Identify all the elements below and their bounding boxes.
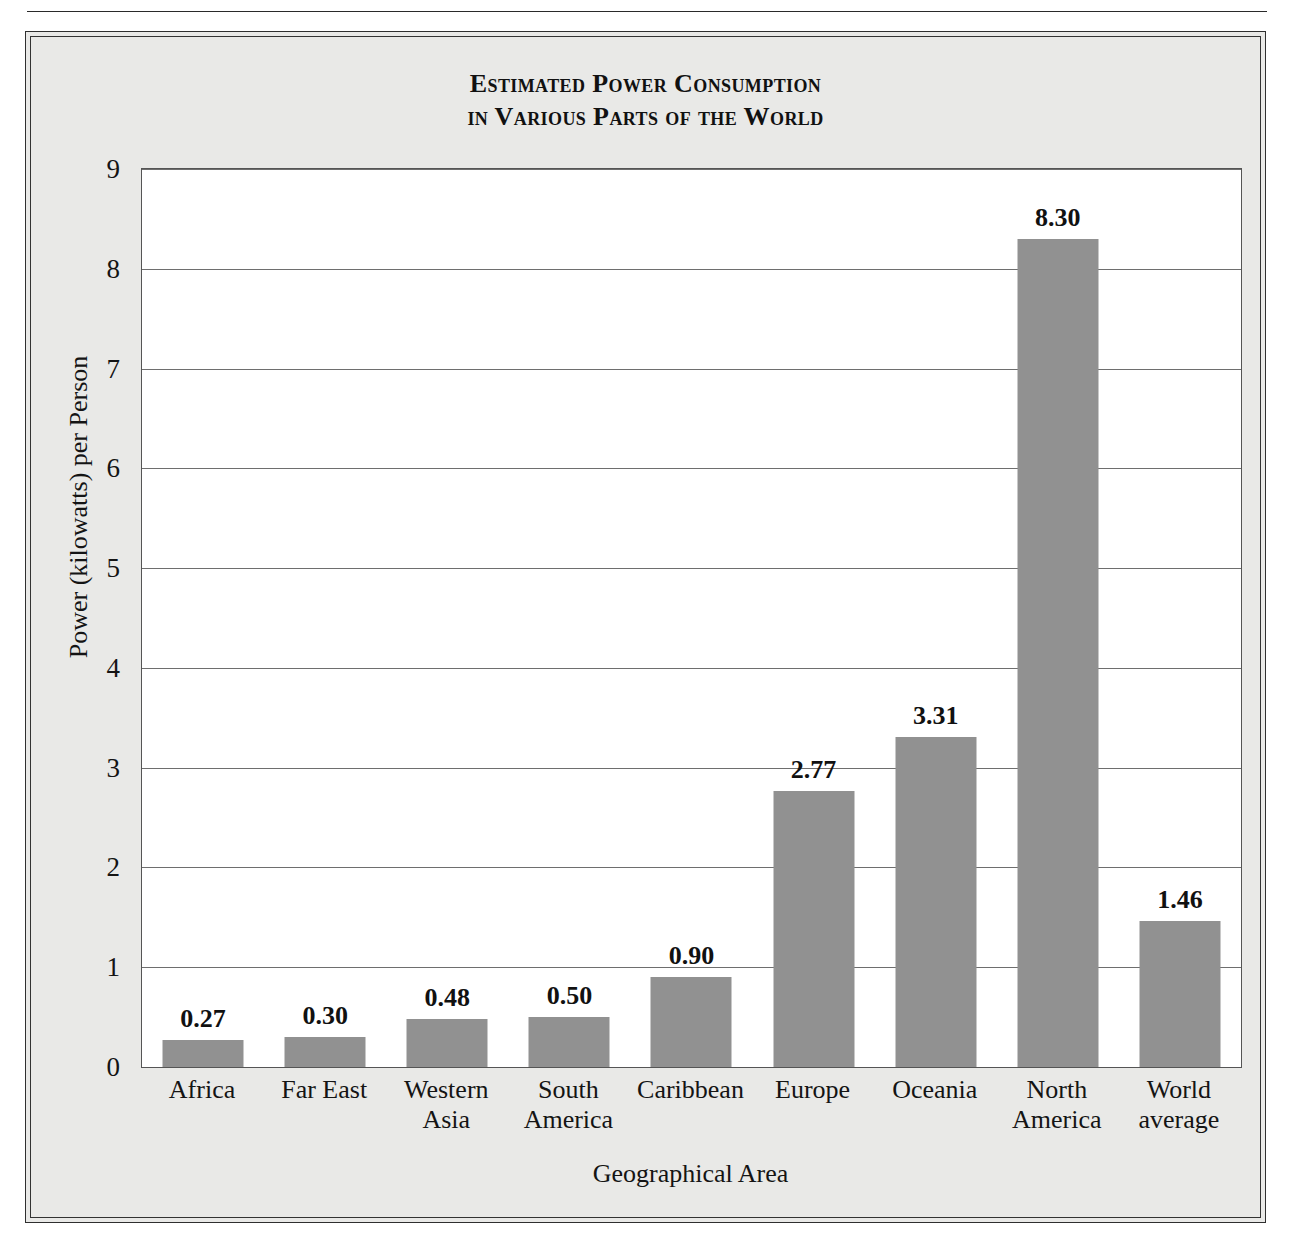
x-axis-category-labels: AfricaFar EastWesternAsiaSouthAmericaCar… (141, 1075, 1240, 1167)
bar-value-label: 0.48 (425, 983, 471, 1013)
bar[interactable] (285, 1037, 366, 1067)
y-tick-label-0: 0 (107, 1052, 121, 1083)
bar-value-label: 0.90 (669, 941, 715, 971)
bar-slot: 8.30 (997, 169, 1119, 1067)
y-axis-title: Power (kilowatts) per Person (64, 227, 94, 787)
x-category-label-line: South (507, 1075, 629, 1105)
bar[interactable] (1017, 239, 1098, 1067)
chart-title: Estimated Power Consumption in Various P… (31, 67, 1260, 134)
y-tick-label-4: 4 (107, 652, 121, 683)
figure-inner-border: Estimated Power Consumption in Various P… (30, 36, 1261, 1218)
bar[interactable] (163, 1040, 244, 1067)
bar[interactable] (773, 791, 854, 1067)
bar-value-label: 0.27 (180, 1004, 226, 1034)
y-tick-label-7: 7 (107, 353, 121, 384)
y-tick-label-2: 2 (107, 852, 121, 883)
bar[interactable] (529, 1017, 610, 1067)
y-tick-label-6: 6 (107, 453, 121, 484)
y-tick-label-5: 5 (107, 553, 121, 584)
bar-value-label: 0.30 (302, 1001, 348, 1031)
x-category-label-line: Europe (752, 1075, 874, 1105)
x-category-label-line: Asia (385, 1105, 507, 1135)
bar-slot: 0.48 (386, 169, 508, 1067)
x-category-label: Oceania (874, 1075, 996, 1105)
y-tick-label-3: 3 (107, 752, 121, 783)
y-tick-label-9: 9 (107, 154, 121, 185)
figure-page: Estimated Power Consumption in Various P… (0, 0, 1292, 1254)
x-category-label-line: Africa (141, 1075, 263, 1105)
bar[interactable] (1139, 921, 1220, 1067)
plot-area: 0123456789 0.270.300.480.500.902.773.318… (141, 168, 1242, 1068)
chart-title-line-2: in Various Parts of the World (31, 100, 1260, 133)
bar[interactable] (651, 977, 732, 1067)
bar-slot: 0.30 (264, 169, 386, 1067)
bar-slot: 3.31 (875, 169, 997, 1067)
bar-slot: 0.27 (142, 169, 264, 1067)
bar-slot: 0.90 (630, 169, 752, 1067)
x-category-label-line: Caribbean (629, 1075, 751, 1105)
x-category-label: Caribbean (629, 1075, 751, 1105)
bar[interactable] (895, 737, 976, 1067)
x-category-label-line: average (1118, 1105, 1240, 1135)
page-top-rule (27, 11, 1267, 12)
x-category-label-line: World (1118, 1075, 1240, 1105)
x-category-label-line: Oceania (874, 1075, 996, 1105)
bar-value-label: 3.31 (913, 701, 959, 731)
x-category-label-line: America (996, 1105, 1118, 1135)
x-category-label: NorthAmerica (996, 1075, 1118, 1135)
x-category-label: Far East (263, 1075, 385, 1105)
x-category-label: Worldaverage (1118, 1075, 1240, 1135)
x-category-label: SouthAmerica (507, 1075, 629, 1135)
bar-series: 0.270.300.480.500.902.773.318.301.46 (142, 169, 1241, 1067)
y-tick-label-8: 8 (107, 253, 121, 284)
x-category-label: Africa (141, 1075, 263, 1105)
x-category-label-line: North (996, 1075, 1118, 1105)
bar-value-label: 1.46 (1157, 885, 1203, 915)
figure-outer-border: Estimated Power Consumption in Various P… (25, 31, 1266, 1223)
bar-value-label: 0.50 (547, 981, 593, 1011)
x-category-label-line: Far East (263, 1075, 385, 1105)
bar-value-label: 8.30 (1035, 203, 1081, 233)
chart-title-line-1: Estimated Power Consumption (31, 67, 1260, 100)
x-category-label: WesternAsia (385, 1075, 507, 1135)
bar[interactable] (407, 1019, 488, 1067)
x-axis-title: Geographical Area (141, 1159, 1240, 1189)
bar-slot: 0.50 (508, 169, 630, 1067)
x-category-label-line: America (507, 1105, 629, 1135)
x-category-label-line: Western (385, 1075, 507, 1105)
y-tick-label-1: 1 (107, 952, 121, 983)
bar-value-label: 2.77 (791, 755, 837, 785)
x-category-label: Europe (752, 1075, 874, 1105)
bar-slot: 2.77 (753, 169, 875, 1067)
bar-slot: 1.46 (1119, 169, 1241, 1067)
